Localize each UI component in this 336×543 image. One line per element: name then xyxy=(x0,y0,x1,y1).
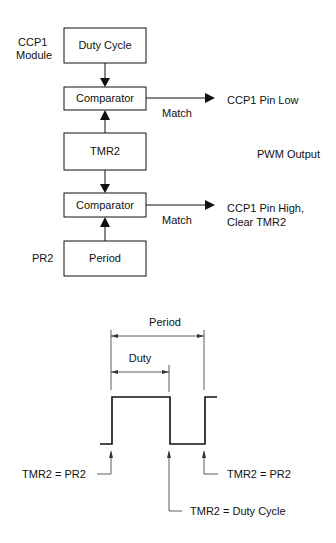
period-label: Period xyxy=(89,252,121,264)
pwm-signal xyxy=(100,397,217,444)
arrow-down-icon xyxy=(100,184,110,193)
period-dimension-label: Period xyxy=(149,316,181,328)
arrow-right-icon xyxy=(197,334,204,338)
module-label-module: Module xyxy=(16,49,52,61)
output2-line2: Clear TMR2 xyxy=(227,216,286,228)
pwm-diagram: CCP1 Module Duty Cycle Comparator Match … xyxy=(0,0,336,543)
arrow-up-icon xyxy=(100,110,110,120)
arrow-up-icon xyxy=(100,217,110,227)
arrow-up-icon xyxy=(167,450,171,458)
duty-dimension-label: Duty xyxy=(129,352,152,364)
module-label-ccp1: CCP1 xyxy=(18,36,47,48)
arrow-right-icon xyxy=(205,93,215,103)
block-diagram: CCP1 Module Duty Cycle Comparator Match … xyxy=(16,28,320,276)
right-event-label: TMR2 = PR2 xyxy=(227,468,291,480)
arrow-right-icon xyxy=(205,200,215,210)
comparator2-label: Comparator xyxy=(76,199,134,211)
output2-line1: CCP1 Pin High, xyxy=(227,202,304,214)
tmr2-label: TMR2 xyxy=(90,145,120,157)
left-event-label: TMR2 = PR2 xyxy=(22,468,86,480)
duty-event-label: TMR2 = Duty Cycle xyxy=(190,505,286,517)
arrow-right-icon xyxy=(162,370,169,374)
arrow-left-icon xyxy=(111,370,118,374)
arrow-up-icon xyxy=(202,450,206,458)
arrow-down-icon xyxy=(100,78,110,87)
comparator1-label: Comparator xyxy=(76,92,134,104)
pr2-label: PR2 xyxy=(32,252,53,264)
arrow-left-icon xyxy=(111,334,118,338)
match1-label: Match xyxy=(162,107,192,119)
output1-label: CCP1 Pin Low xyxy=(227,94,299,106)
pwm-waveform: Period Duty TMR2 = PR2 TMR2 = PR2 TMR2 =… xyxy=(22,316,291,517)
arrow-up-icon xyxy=(109,450,113,458)
duty-cycle-label: Duty Cycle xyxy=(78,39,131,51)
pwm-output-label: PWM Output xyxy=(257,148,320,160)
match2-label: Match xyxy=(162,214,192,226)
